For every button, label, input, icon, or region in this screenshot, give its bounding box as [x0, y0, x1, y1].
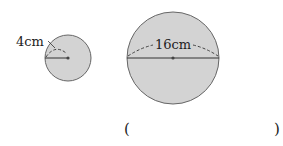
small-center-dot: [66, 56, 69, 59]
small-radius-label: 4cm: [16, 34, 44, 49]
diagram-canvas: 4cm 16cm: [0, 0, 283, 146]
answer-close-paren: ): [274, 120, 280, 138]
answer-open-paren: (: [124, 120, 130, 138]
small-circle: 4cm: [16, 34, 91, 81]
large-center-dot: [171, 56, 174, 59]
large-circle: 16cm: [127, 12, 219, 104]
large-diameter-label: 16cm: [155, 37, 191, 52]
